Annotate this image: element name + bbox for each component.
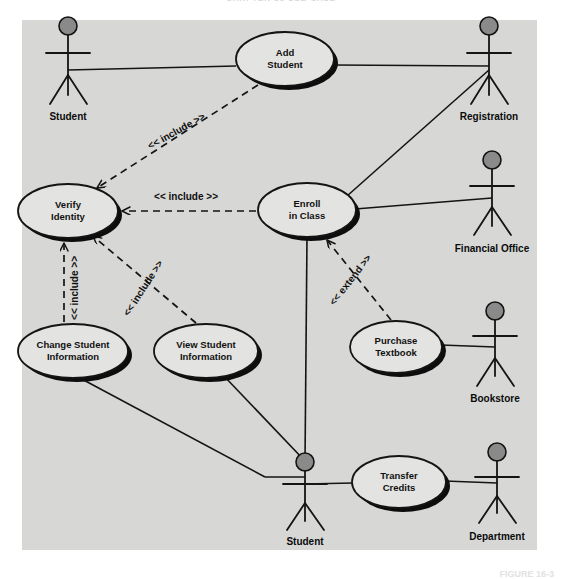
actor-label: Registration <box>460 111 518 122</box>
use-case-label-line1: Verify <box>55 199 82 210</box>
figure-caption: FIGURE 16-3 <box>499 569 554 579</box>
actor-label: Bookstore <box>470 393 520 404</box>
use-case-label-line1: Transfer <box>380 470 418 481</box>
use-case-label-line1: Enroll <box>294 198 321 209</box>
use-case-label-line2: Information <box>47 351 99 362</box>
actor-label: Student <box>49 111 87 122</box>
use-case-label-line2: Information <box>180 351 232 362</box>
use-case-label-line1: Change Student <box>37 339 111 350</box>
use-case-label-line2: in Class <box>289 210 325 221</box>
use-case-label-line2: Credits <box>383 482 416 493</box>
stereotype-include-enroll: << include >> <box>154 191 218 202</box>
use-case-label-line2: Textbook <box>375 347 417 358</box>
diagram-panel <box>22 20 537 550</box>
actor-label: Student <box>286 536 324 547</box>
use-case-label-line1: View Student <box>176 339 236 350</box>
stereotype-include-change: << include >> <box>69 256 80 320</box>
use-case-label-line1: Purchase <box>375 335 418 346</box>
assoc-add-registration <box>334 65 489 66</box>
use-case-label-line2: Student <box>267 59 303 70</box>
use-case-label-line2: Identity <box>51 211 85 222</box>
actor-label: Financial Office <box>455 243 530 254</box>
actor-label: Department <box>469 531 525 542</box>
use-case-label-line1: Add <box>276 47 295 58</box>
